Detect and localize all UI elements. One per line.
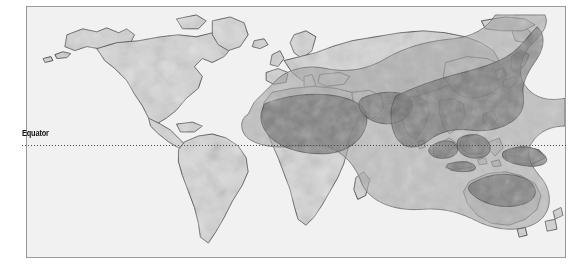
world-map [27,7,565,257]
equator-line [22,145,567,146]
map-frame [26,6,566,258]
land-new-zealand-s [545,219,557,231]
figure-container: Equator [0,0,575,276]
equator-label: Equator [22,128,49,138]
range-core-java [447,162,475,172]
